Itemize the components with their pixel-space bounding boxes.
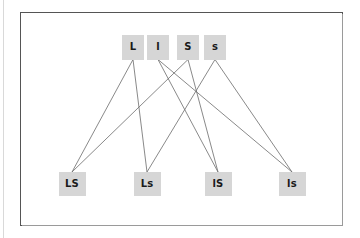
edge-l-lS — [158, 60, 218, 173]
node-LS: LS — [59, 172, 86, 196]
edge-S-LS — [72, 60, 188, 173]
edge-L-Ls — [133, 60, 147, 173]
node-s: s — [204, 35, 226, 60]
bipartite-diagram: LlSsLSLslSls — [20, 12, 343, 226]
edge-s-Ls — [147, 60, 215, 173]
edge-l-ls — [158, 60, 292, 173]
node-S: S — [177, 35, 199, 60]
node-lS: lS — [205, 172, 232, 196]
node-Ls: Ls — [134, 172, 161, 196]
edge-L-LS — [72, 60, 133, 173]
node-l: l — [147, 35, 169, 60]
node-L: L — [122, 35, 144, 60]
node-ls: ls — [279, 172, 306, 196]
edge-S-lS — [188, 60, 218, 173]
figure-page: LlSsLSLslSls — [0, 0, 360, 238]
edge-s-ls — [215, 60, 292, 173]
page-left-rule — [3, 0, 4, 238]
